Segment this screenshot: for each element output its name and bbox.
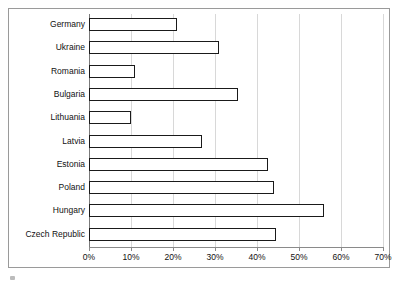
category-label-ukraine: Ukraine [0, 42, 85, 52]
bar-poland [89, 181, 274, 194]
category-label-bulgaria: Bulgaria [0, 89, 85, 99]
bar-row: Czech Republic [0, 224, 401, 247]
bar-chart: 0%10%20%30%40%50%60%70%GermanyUkraineRom… [0, 0, 401, 284]
bar-lithuania [89, 111, 131, 124]
bar-estonia [89, 158, 268, 171]
x-tick-mark [341, 247, 342, 251]
x-tick-mark [215, 247, 216, 251]
x-axis-tick-label: 20% [156, 252, 190, 263]
category-label-poland: Poland [0, 182, 85, 192]
x-tick-mark [131, 247, 132, 251]
bar-latvia [89, 135, 202, 148]
bar-row: Ukraine [0, 37, 401, 60]
bar-romania [89, 65, 135, 78]
bar-germany [89, 18, 177, 31]
bar-row: Lithuania [0, 107, 401, 130]
bar-row: Romania [0, 61, 401, 84]
bar-row: Hungary [0, 200, 401, 223]
category-label-germany: Germany [0, 19, 85, 29]
category-label-hungary: Hungary [0, 205, 85, 215]
x-axis-tick-label: 40% [240, 252, 274, 263]
category-label-romania: Romania [0, 66, 85, 76]
bar-hungary [89, 204, 324, 217]
x-axis-tick-label: 50% [282, 252, 316, 263]
category-label-czech-republic: Czech Republic [0, 229, 85, 239]
bar-czech-republic [89, 228, 276, 241]
x-tick-mark [299, 247, 300, 251]
scan-artifact [10, 276, 15, 280]
x-axis-line [89, 247, 383, 248]
x-tick-mark [173, 247, 174, 251]
category-label-latvia: Latvia [0, 136, 85, 146]
bar-bulgaria [89, 88, 238, 101]
x-axis-tick-label: 70% [366, 252, 400, 263]
x-axis-tick-label: 0% [72, 252, 106, 263]
bar-row: Poland [0, 177, 401, 200]
x-axis-tick-label: 30% [198, 252, 232, 263]
x-axis-tick-label: 60% [324, 252, 358, 263]
category-label-estonia: Estonia [0, 159, 85, 169]
category-label-lithuania: Lithuania [0, 112, 85, 122]
bar-row: Germany [0, 14, 401, 37]
bar-row: Latvia [0, 131, 401, 154]
x-axis-tick-label: 10% [114, 252, 148, 263]
x-tick-mark [257, 247, 258, 251]
x-tick-mark [383, 247, 384, 251]
bar-row: Bulgaria [0, 84, 401, 107]
bar-ukraine [89, 41, 219, 54]
x-tick-mark [89, 247, 90, 251]
bar-row: Estonia [0, 154, 401, 177]
